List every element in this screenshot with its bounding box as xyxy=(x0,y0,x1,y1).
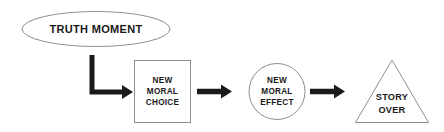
elbow-arrow-shape xyxy=(90,55,134,99)
node-new-moral-effect-line-3: EFFECT xyxy=(260,98,293,107)
node-new-moral-choice-line-2: MORAL xyxy=(147,87,178,96)
flowchart-diagram: TRUTH MOMENT NEW MORAL CHOICE NEW MORAL … xyxy=(0,0,444,132)
node-new-moral-choice-line-3: CHOICE xyxy=(146,98,180,107)
node-story-over: STORY OVER xyxy=(356,60,429,123)
arrow-effect-to-story-connector xyxy=(310,85,345,99)
node-story-over-line-1: STORY xyxy=(376,92,408,102)
node-truth-moment-label: TRUTH MOMENT xyxy=(50,23,143,35)
node-new-moral-effect: NEW MORAL EFFECT xyxy=(249,64,305,120)
elbow-arrow-connector xyxy=(90,55,134,99)
node-new-moral-effect-line-2: MORAL xyxy=(261,87,292,96)
node-new-moral-choice: NEW MORAL CHOICE xyxy=(135,61,191,123)
arrow-choice-to-effect-connector xyxy=(197,85,232,99)
node-new-moral-effect-line-1: NEW xyxy=(267,76,287,85)
straight-arrow-shape xyxy=(310,85,345,99)
flowchart-canvas: TRUTH MOMENT NEW MORAL CHOICE NEW MORAL … xyxy=(0,0,444,132)
node-truth-moment: TRUTH MOMENT xyxy=(22,12,170,47)
straight-arrow-shape xyxy=(197,85,232,99)
node-new-moral-choice-line-1: NEW xyxy=(153,76,173,85)
node-story-over-line-2: OVER xyxy=(378,105,405,115)
